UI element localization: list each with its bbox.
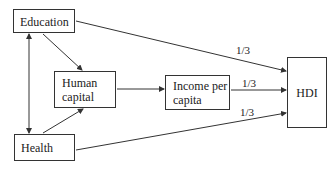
- node-health: Health: [14, 134, 75, 161]
- node-education: Education: [13, 9, 75, 33]
- edge-health-humancapital: [43, 109, 83, 133]
- node-income-per-capita: Income per capita: [165, 75, 230, 110]
- weight-education-hdi: 1/3: [236, 44, 250, 56]
- edge-education-humancapital: [43, 34, 82, 70]
- edge-education-hdi: [76, 21, 286, 71]
- node-human-capital-line2: capital: [62, 90, 115, 104]
- node-human-capital-line1: Human: [62, 76, 115, 90]
- node-income-line2: capita: [173, 93, 229, 107]
- weight-health-hdi: 1/3: [240, 106, 254, 118]
- node-education-label: Education: [20, 15, 74, 29]
- node-income-line1: Income per: [173, 79, 229, 93]
- node-health-label: Health: [21, 141, 74, 155]
- node-human-capital: Human capital: [54, 71, 116, 108]
- weight-income-hdi: 1/3: [242, 77, 256, 89]
- node-hdi: HDI: [287, 57, 327, 128]
- node-hdi-label: HDI: [296, 86, 317, 100]
- edge-health-hdi: [76, 113, 286, 150]
